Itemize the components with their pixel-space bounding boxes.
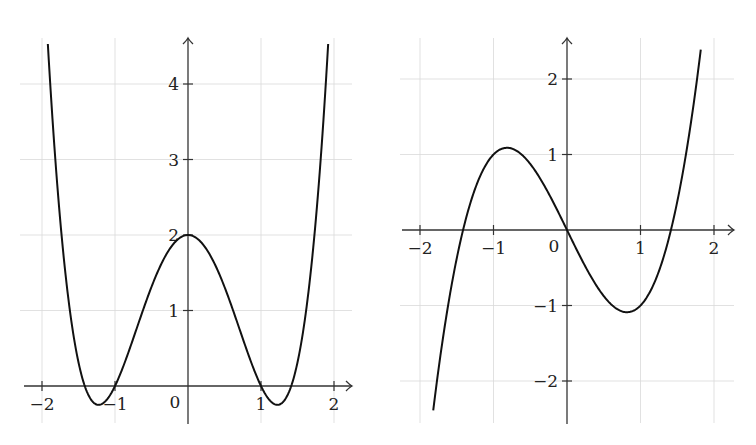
y-tick-label: 2 [547, 69, 558, 89]
axes-left [24, 38, 352, 424]
y-tick-label: 1 [547, 145, 558, 165]
x-tick-label: −2 [407, 238, 432, 258]
x-tick-label: 2 [329, 394, 340, 414]
y-tick-label: −1 [533, 296, 558, 316]
x-tick-label: 1 [635, 238, 646, 258]
x-tick-label: −2 [29, 394, 54, 414]
x-tick-label: 1 [256, 394, 267, 414]
grid-left [20, 38, 352, 423]
y-tick-label: 1 [168, 301, 179, 321]
plot-cubic: −2−1012−2−112 [400, 38, 734, 424]
plot-quartic: −2−10121234 [20, 38, 352, 424]
plots-canvas: −2−10121234 −2−1012−2−112 [0, 0, 756, 445]
origin-label: 0 [170, 392, 181, 412]
x-tick-label: −1 [481, 238, 506, 258]
y-tick-label: 4 [168, 74, 179, 94]
x-tick-label: −1 [102, 394, 127, 414]
y-tick-label: 2 [168, 225, 179, 245]
origin-label: 0 [549, 236, 560, 256]
y-tick-label: −2 [533, 371, 558, 391]
y-tick-label: 3 [168, 150, 179, 170]
x-tick-label: 2 [709, 238, 720, 258]
tick-labels-left: −2−10121234 [29, 74, 339, 414]
